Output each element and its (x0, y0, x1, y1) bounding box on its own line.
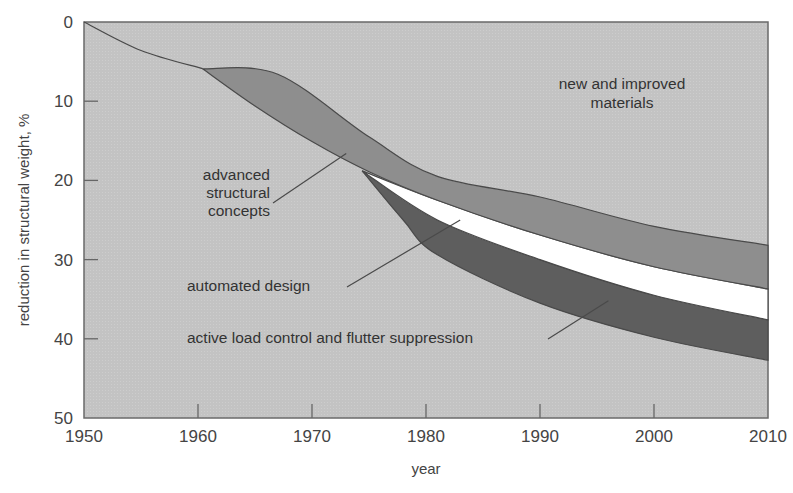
y-tick-label: 0 (64, 13, 73, 32)
y-tick-label: 10 (54, 92, 73, 111)
x-tick-label: 2010 (749, 427, 787, 446)
y-tick-label: 20 (54, 171, 73, 190)
annotation-automated-design: automated design (187, 277, 310, 294)
annotation-materials-line1: new and improved (559, 75, 686, 92)
x-axis-title: year (411, 460, 440, 477)
y-axis-title: reduction in structural weight, % (15, 114, 32, 327)
x-tick-label: 1970 (293, 427, 331, 446)
x-tick-label: 1990 (521, 427, 559, 446)
annotation-asc-line1: advanced (203, 166, 270, 183)
x-tick-label: 2000 (635, 427, 673, 446)
annotation-asc-line2: structural (206, 184, 270, 201)
annotation-asc-line3: concepts (208, 202, 270, 219)
y-tick-label: 30 (54, 251, 73, 270)
annotation-active-load-control: active load control and flutter suppress… (187, 329, 473, 346)
y-tick-label: 40 (54, 330, 73, 349)
x-tick-label: 1950 (65, 427, 103, 446)
y-tick-label: 50 (54, 409, 73, 428)
x-tick-label: 1960 (179, 427, 217, 446)
chart: 195019601970198019902000201001020304050 … (0, 0, 793, 493)
x-tick-label: 1980 (407, 427, 445, 446)
annotation-materials-line2: materials (591, 94, 654, 111)
